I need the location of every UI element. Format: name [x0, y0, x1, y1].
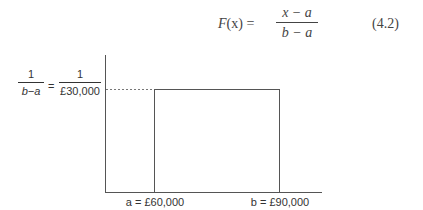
x-label-b: b = £90,000 — [247, 196, 313, 208]
chart-plot — [0, 0, 423, 210]
x-label-a: a = £60,000 — [122, 196, 188, 208]
uniform-density-rectangle — [155, 90, 280, 193]
